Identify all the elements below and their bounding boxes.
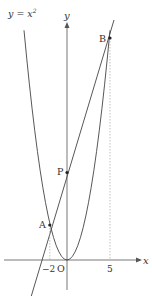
curve-label: y = x2 <box>7 7 37 19</box>
point-p-label: P <box>57 166 64 177</box>
y-axis-label: y <box>63 10 70 21</box>
parabola-line-diagram: y = x2 y x O A B P −2 5 <box>0 0 152 296</box>
point-p-dot <box>65 171 68 174</box>
origin-label: O <box>57 263 65 274</box>
tick-label-5: 5 <box>107 264 113 274</box>
y-axis <box>65 22 70 290</box>
point-b-label: B <box>99 33 106 44</box>
x-axis <box>4 258 142 263</box>
point-a-label: A <box>38 219 46 230</box>
point-a-dot <box>48 223 51 226</box>
line-ab <box>31 20 114 296</box>
point-b-dot <box>108 36 111 39</box>
x-axis-label: x <box>143 255 149 266</box>
tick-label-neg2: −2 <box>42 264 55 274</box>
